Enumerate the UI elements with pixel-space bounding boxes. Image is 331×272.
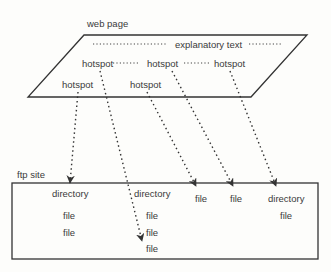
ftp-col4-file: file bbox=[230, 194, 242, 204]
ftp-col1-file-2: file bbox=[63, 228, 75, 238]
hotspot-1[interactable]: hotspot bbox=[82, 59, 113, 69]
explanatory-text: explanatory text bbox=[175, 40, 242, 50]
ftp-col2-file-2: file bbox=[146, 228, 158, 238]
ftp-site-label: ftp site bbox=[17, 170, 45, 180]
ftp-col1-directory: directory bbox=[52, 189, 88, 199]
ftp-col1-file-1: file bbox=[63, 211, 75, 221]
hotspot-4[interactable]: hotspot bbox=[62, 80, 93, 90]
ftp-col2-file-1: file bbox=[146, 211, 158, 221]
diagram-canvas bbox=[0, 0, 331, 272]
hotspot-5[interactable]: hotspot bbox=[130, 80, 161, 90]
ftp-col3-file: file bbox=[195, 194, 207, 204]
ftp-col2-directory: directory bbox=[134, 189, 170, 199]
ftp-col5-directory: directory bbox=[268, 194, 304, 204]
ftp-col2-file-3: file bbox=[146, 244, 158, 254]
web-page-label: web page bbox=[87, 19, 128, 29]
ftp-col5-file: file bbox=[280, 211, 292, 221]
hotspot-3[interactable]: hotspot bbox=[214, 59, 245, 69]
hotspot-2[interactable]: hotspot bbox=[147, 59, 178, 69]
